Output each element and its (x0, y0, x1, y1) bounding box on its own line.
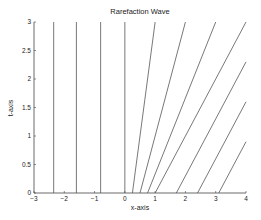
characteristic-line (132, 22, 155, 193)
x-tick-label: 4 (244, 195, 248, 202)
characteristic-lines (54, 22, 246, 193)
y-tick-label: 0.5 (22, 161, 31, 168)
rarefaction-wave-chart: Rarefaction Wave −3−2−10123400.511.522.5… (0, 0, 261, 220)
x-tick-label: 1 (153, 195, 157, 202)
characteristic-line (148, 22, 216, 193)
y-tick-label: 0 (27, 189, 31, 196)
x-tick-label: 0 (123, 195, 127, 202)
x-tick-label: −3 (30, 195, 38, 202)
y-tick-label: 2.5 (22, 47, 31, 54)
y-tick-label: 3 (27, 18, 31, 25)
chart-title: Rarefaction Wave (110, 7, 169, 16)
y-tick-label: 1.5 (22, 104, 31, 111)
x-axis-label: x-axis (131, 204, 150, 211)
characteristic-line (219, 142, 246, 193)
x-tick-label: 2 (184, 195, 188, 202)
characteristic-line (176, 62, 246, 193)
characteristic-line (140, 22, 185, 193)
x-tick-label: −1 (91, 195, 99, 202)
plot-canvas: Rarefaction Wave −3−2−10123400.511.522.5… (0, 0, 261, 220)
characteristic-line (198, 102, 246, 193)
y-axis-label: t-axis (7, 99, 14, 116)
y-tick-label: 1 (27, 132, 31, 139)
x-tick-label: 3 (214, 195, 218, 202)
y-tick-label: 2 (27, 75, 31, 82)
x-tick-label: −2 (61, 195, 69, 202)
